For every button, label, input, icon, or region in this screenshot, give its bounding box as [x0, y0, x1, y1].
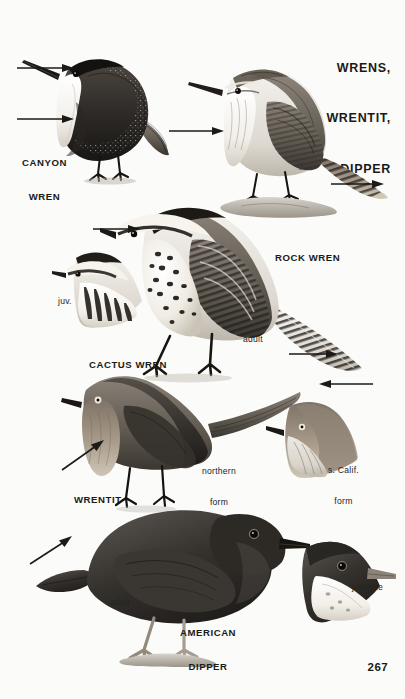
annotation-dipper-adult: adult [110, 597, 130, 607]
wrentit-scalif-line-2: form [328, 496, 359, 506]
cactus-wren-tail-pointer [288, 348, 340, 360]
canyon-wren-throat-pointer [16, 62, 76, 74]
page-number: 267 [368, 661, 388, 675]
canyon-wren-belly-pointer [16, 113, 76, 125]
dipper-tail-pointer [28, 534, 76, 566]
dipper-label-line-2: DIPPER [180, 661, 236, 672]
wrentit-northern-line-1: northern [202, 466, 236, 476]
rock-wren-breast-pointer [168, 125, 226, 137]
field-guide-plate: WRENS, WRENTIT, DIPPER [0, 0, 405, 699]
dipper-figure [22, 482, 312, 667]
dipper-juv-head [276, 532, 396, 628]
wrentit-tail-pointer [318, 378, 374, 390]
cactus-wren-breast-pointer [92, 223, 142, 235]
dipper-label-line-1: AMERICAN [180, 627, 236, 638]
annotation-cactus-wren-adult: adult [243, 334, 263, 344]
canyon-wren-label-line-2: WREN [22, 191, 67, 202]
annotation-wrentit-scalif-form: s. Calif. form [328, 445, 359, 526]
annotation-dipper-juvenile: juvenile [352, 582, 383, 592]
wrentit-scalif-line-1: s. Calif. [328, 465, 359, 475]
annotation-cactus-wren-juvenile: juv. [58, 296, 72, 306]
species-label-american-dipper: AMERICAN DIPPER [180, 604, 236, 695]
canyon-wren-label-line-1: CANYON [22, 157, 67, 168]
wrentit-breast-pointer [60, 438, 108, 472]
species-label-canyon-wren: CANYON WREN [22, 134, 67, 225]
